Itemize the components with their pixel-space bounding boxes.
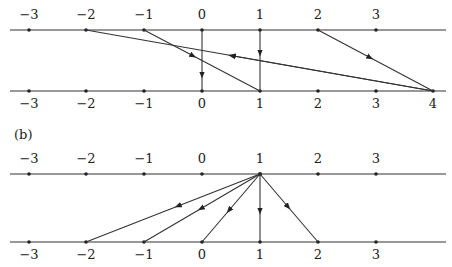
tick-label: 0 [198,7,206,22]
panel-a: −3 −2 −1 0 1 2 3 −3 −2 −1 0 1 2 3 4 [10,7,446,111]
panel-a-top-labels: −3 −2 −1 0 1 2 3 [19,7,380,22]
panel-b-top-labels: −3 −2 −1 0 1 2 3 [19,151,380,166]
arrow-icon [232,56,433,91]
panel-b-edges [86,174,318,242]
edge-a-2-4 [318,30,433,91]
tick-label: 3 [372,96,380,111]
tick-label: 3 [372,7,380,22]
tick-label: −1 [134,151,153,166]
tick-label: 2 [314,247,322,262]
tick-label: 1 [256,7,264,22]
tick-label: 0 [198,96,206,111]
tick-label: 2 [314,96,322,111]
panel-a-edges [86,30,433,91]
tick-label: −3 [19,151,38,166]
edge-b-1-neg1 [144,174,260,242]
edge-b-1-2 [260,174,318,242]
edge-b-1-neg2 [86,174,260,242]
tick-label: 1 [256,151,264,166]
tick-label: 4 [429,96,437,111]
tick-label: −2 [76,247,95,262]
tick-label: 0 [198,247,206,262]
tick-label: 2 [314,151,322,166]
tick-label: 1 [256,96,264,111]
tick-label: −2 [76,151,95,166]
tick-label: −2 [76,96,95,111]
mapping-diagram: −3 −2 −1 0 1 2 3 −3 −2 −1 0 1 2 3 4 [0,0,452,267]
tick-label: 3 [372,151,380,166]
tick-label: 3 [372,247,380,262]
tick-label: 2 [314,7,322,22]
panel-b: −3 −2 −1 0 1 2 3 −3 −2 −1 0 1 2 3 [10,151,446,262]
tick-label: 1 [256,247,264,262]
edge-b-1-0 [202,174,260,242]
tick-label: −3 [19,96,38,111]
tick-label: −3 [19,7,38,22]
panel-a-bottom-labels: −3 −2 −1 0 1 2 3 4 [19,96,437,111]
tick-label: −1 [134,247,153,262]
panel-b-bottom-labels: −3 −2 −1 0 1 2 3 [19,247,380,262]
tick-label: −2 [76,7,95,22]
panel-b-label: (b) [14,127,32,142]
tick-label: −1 [134,7,153,22]
tick-label: −1 [134,96,153,111]
tick-label: −3 [19,247,38,262]
tick-label: 0 [198,151,206,166]
